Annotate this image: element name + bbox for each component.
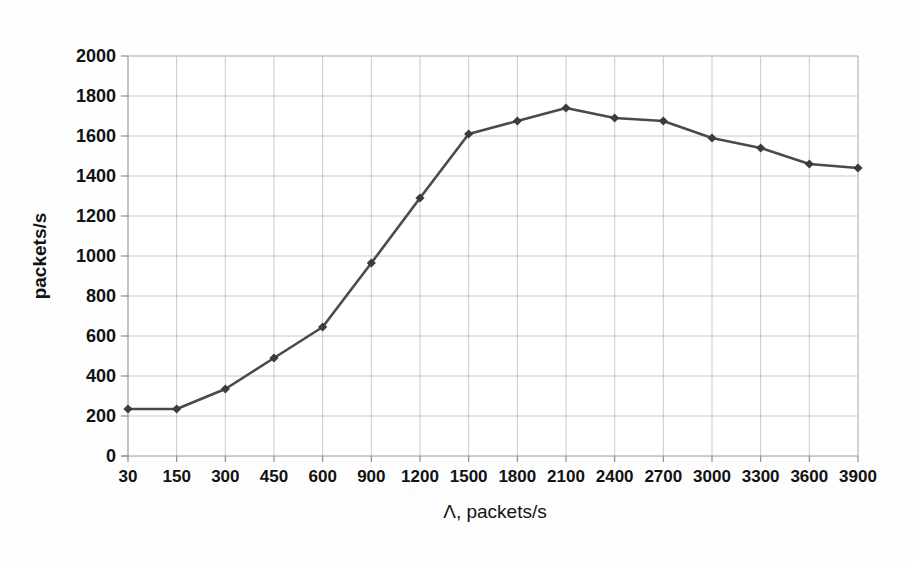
y-tick-label: 1400 [76,166,116,186]
line-chart: 0200400600800100012001400160018002000 30… [0,0,914,561]
x-tick-label: 30 [119,467,138,486]
y-axis-ticks: 0200400600800100012001400160018002000 [76,46,128,466]
x-tick-label: 300 [211,467,239,486]
y-tick-label: 0 [106,446,116,466]
x-tick-label: 2100 [547,467,585,486]
x-tick-label: 3900 [839,467,877,486]
x-tick-label: 3300 [742,467,780,486]
x-tick-label: 3600 [790,467,828,486]
y-tick-label: 600 [86,326,116,346]
y-tick-label: 1600 [76,126,116,146]
x-tick-label: 150 [162,467,190,486]
y-tick-label: 200 [86,406,116,426]
x-axis-ticks: 3015030045060090012001500180021002400270… [119,456,877,486]
x-tick-label: 900 [357,467,385,486]
y-tick-label: 400 [86,366,116,386]
x-tick-label: 3000 [693,467,731,486]
y-tick-label: 1200 [76,206,116,226]
y-tick-label: 800 [86,286,116,306]
x-tick-label: 1200 [401,467,439,486]
x-tick-label: 450 [260,467,288,486]
x-tick-label: 600 [308,467,336,486]
y-tick-label: 1000 [76,246,116,266]
x-tick-label: 2400 [596,467,634,486]
x-tick-label: 1500 [450,467,488,486]
y-axis-title: packets/s [29,213,50,300]
x-axis-title: Λ, packets/s [443,501,547,522]
x-tick-label: 2700 [644,467,682,486]
x-tick-label: 1800 [498,467,536,486]
y-tick-label: 1800 [76,86,116,106]
chart-root: 0200400600800100012001400160018002000 30… [0,0,914,561]
y-tick-label: 2000 [76,46,116,66]
